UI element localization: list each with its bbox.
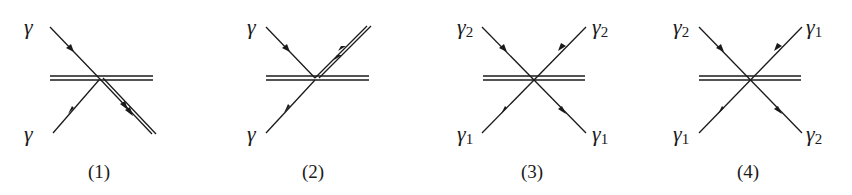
caption-2: (2) [302, 161, 324, 183]
caption-1: (1) [88, 161, 110, 183]
diagram-3: γ2 γ2 γ1 γ1 (3) [457, 14, 608, 183]
double-line-out-b [319, 26, 371, 78]
feynman-diagrams: γ γ (1) γ γ (2) γ2 γ2 γ1 γ1 [0, 0, 852, 195]
arrow-icon [501, 106, 507, 114]
arrow-icon [774, 106, 782, 114]
photon-line-in-top [266, 27, 315, 78]
label-gamma1-top-right: γ1 [806, 14, 822, 40]
label-gamma2-top-right: γ2 [592, 14, 608, 40]
caption-4: (4) [737, 161, 759, 183]
label-gamma1-bottom-right: γ1 [592, 121, 608, 147]
arrow-icon [718, 106, 724, 114]
label-gamma2-bottom-right: γ2 [806, 121, 822, 147]
diagram-4: γ2 γ1 γ1 γ2 (4) [673, 14, 822, 183]
double-line-out-b [103, 78, 156, 134]
arrow-icon [558, 106, 566, 114]
photon-line-in-bottom [53, 80, 99, 133]
arrow-icon [558, 43, 566, 51]
label-gamma-top-left: γ [247, 14, 257, 39]
arrow-icon [774, 43, 782, 51]
label-gamma-bottom-left: γ [24, 121, 34, 146]
photon-line-in-top [50, 27, 99, 78]
label-gamma2-top-left: γ2 [673, 14, 689, 40]
photon-line-in-bottom [266, 80, 315, 133]
label-gamma-top-left: γ [24, 14, 34, 39]
diagram-1: γ γ (1) [24, 14, 156, 183]
double-line-out-a [315, 26, 367, 78]
label-gamma1-bottom-left: γ1 [457, 121, 473, 147]
diagram-2: γ γ (2) [247, 14, 371, 183]
label-gamma2-top-left: γ2 [457, 14, 473, 40]
caption-3: (3) [521, 161, 543, 183]
label-gamma1-bottom-left: γ1 [673, 121, 689, 147]
label-gamma-bottom-left: γ [247, 121, 257, 146]
